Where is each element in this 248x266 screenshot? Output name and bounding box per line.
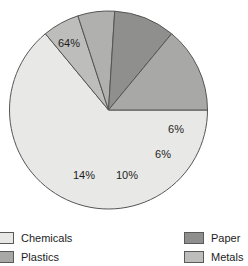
legend-swatch-plastics [0, 251, 14, 263]
legend-column-left: Chemicals Plastics [0, 228, 72, 266]
legend-swatch-metals [184, 251, 204, 263]
pie-slice-value-paper: 10% [116, 169, 138, 181]
legend-label-paper: Paper [211, 232, 240, 244]
legend-column-right: Paper Metals [184, 228, 243, 266]
pie-chart-figure: 64%6%6%10%14% Chemicals Plastics Paper M… [0, 0, 248, 266]
pie-slice-value-plastics: 14% [73, 169, 95, 181]
legend-swatch-chemicals [0, 232, 14, 244]
pie-slice-group [10, 11, 208, 209]
legend-item-plastics[interactable]: Plastics [0, 247, 72, 266]
pie-chart-plot-area: 64%6%6%10%14% [0, 0, 248, 222]
legend-item-metals[interactable]: Metals [184, 247, 243, 266]
legend-label-plastics: Plastics [21, 251, 59, 263]
legend-label-metals: Metals [211, 251, 243, 263]
pie-chart-svg: 64%6%6%10%14% [0, 0, 248, 222]
legend-label-chemicals: Chemicals [21, 232, 72, 244]
legend-item-paper[interactable]: Paper [184, 228, 243, 247]
chart-legend: Chemicals Plastics Paper Metals [0, 228, 248, 266]
pie-slice-value-metals-2: 6% [155, 148, 171, 160]
pie-slice-value-chemicals: 64% [58, 37, 80, 49]
pie-slice-value-metals: 6% [168, 123, 184, 135]
legend-swatch-paper [184, 232, 204, 244]
legend-item-chemicals[interactable]: Chemicals [0, 228, 72, 247]
